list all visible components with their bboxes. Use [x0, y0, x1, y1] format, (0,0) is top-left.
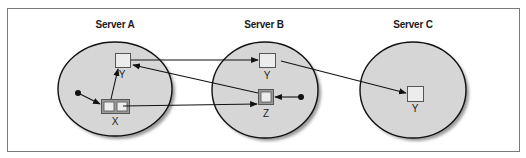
server-b-label: Server B	[244, 19, 284, 30]
object-a-y-box	[116, 54, 131, 68]
object-c-y-box	[408, 87, 424, 102]
object-c-y-label: Y	[412, 103, 419, 114]
object-a-y-label: Y	[119, 69, 126, 80]
server-b-root-dot	[298, 94, 304, 100]
distributed-objects-diagram: Server A Server B Server C Y X Y Z Y	[0, 0, 526, 158]
server-a-root-dot	[75, 90, 81, 96]
object-b-y-box	[260, 54, 276, 68]
object-a-x-label: X	[112, 116, 119, 127]
object-a-x-slot-left	[104, 102, 114, 111]
server-c-label: Server C	[393, 19, 433, 30]
server-a-label: Server A	[95, 19, 134, 30]
object-b-y-label: Y	[264, 70, 271, 81]
object-b-z-inner	[261, 92, 271, 102]
object-b-z-label: Z	[263, 108, 269, 119]
